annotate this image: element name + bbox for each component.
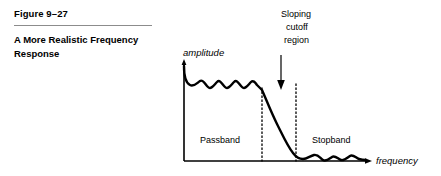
frequency-response-curve — [184, 66, 366, 161]
caption-divider — [14, 25, 152, 26]
figure-title: A More Realistic Frequency Response — [14, 33, 154, 60]
x-axis-label: frequency — [376, 155, 419, 166]
callout-line-1: Sloping — [281, 9, 311, 19]
frequency-response-chart: amplitude frequency Passband Stopband Sl… — [170, 0, 441, 176]
callout-arrowhead-icon — [277, 80, 285, 90]
y-axis-label: amplitude — [183, 47, 224, 58]
stopband-label: Stopband — [312, 135, 351, 145]
figure-number: Figure 9–27 — [14, 8, 164, 20]
figure-container: Figure 9–27 A More Realistic Frequency R… — [0, 0, 441, 176]
callout-line-3: region — [284, 35, 309, 45]
figure-caption-block: Figure 9–27 A More Realistic Frequency R… — [14, 8, 164, 60]
cutoff-callout: Sloping cutoff region — [277, 9, 311, 90]
callout-line-2: cutoff — [286, 22, 308, 32]
passband-label: Passband — [200, 135, 240, 145]
chart-plot-area: amplitude frequency Passband Stopband Sl… — [170, 0, 441, 176]
y-axis-arrowhead — [182, 59, 187, 65]
